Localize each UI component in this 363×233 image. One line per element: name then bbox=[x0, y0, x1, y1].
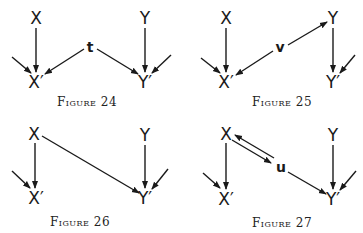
node-x-prime: X′ bbox=[28, 72, 44, 92]
caption: Figure 25 bbox=[252, 95, 312, 109]
edge-x-to-u bbox=[232, 140, 271, 163]
edge-external-to-xprime bbox=[12, 171, 30, 188]
edge-external-to-yprime bbox=[152, 55, 171, 73]
node-y: Y bbox=[327, 125, 339, 145]
edge-t-to-xprime bbox=[45, 49, 84, 74]
node-u: u bbox=[276, 159, 286, 175]
figures-canvas: X X′ Y Y′ t Figure 24 X X′ Y Y′ v Figure… bbox=[0, 0, 363, 233]
edge-external-to-xprime bbox=[203, 173, 220, 188]
node-v: v bbox=[275, 39, 284, 55]
node-y-prime: Y′ bbox=[325, 72, 340, 92]
node-x-prime: X′ bbox=[218, 189, 234, 209]
edge-external-to-xprime bbox=[12, 57, 31, 73]
figure-26: X X′ Y Y′ Figure 26 bbox=[12, 124, 168, 229]
node-x: X bbox=[30, 8, 42, 28]
edge-t-to-yprime bbox=[97, 49, 138, 74]
caption: Figure 27 bbox=[252, 216, 312, 230]
node-y: Y bbox=[327, 8, 339, 28]
edge-external-to-yprime bbox=[340, 171, 356, 190]
caption: Figure 24 bbox=[57, 95, 117, 109]
edge-external-to-yprime bbox=[340, 55, 355, 73]
node-y-prime: Y′ bbox=[137, 72, 152, 92]
node-x: X bbox=[220, 124, 232, 144]
node-t: t bbox=[87, 39, 94, 55]
edge-external-to-xprime bbox=[201, 58, 220, 73]
node-x: X bbox=[220, 8, 232, 28]
caption: Figure 26 bbox=[50, 215, 110, 229]
node-y: Y bbox=[139, 125, 151, 145]
node-y: Y bbox=[139, 8, 151, 28]
node-y-prime: Y′ bbox=[137, 188, 152, 208]
edge-external-to-yprime bbox=[152, 169, 168, 189]
edge-v-to-y bbox=[288, 22, 327, 45]
node-x: X bbox=[28, 124, 40, 144]
figure-27: X X′ Y Y′ u Figure 27 bbox=[203, 124, 356, 230]
figure-24: X X′ Y Y′ t Figure 24 bbox=[12, 8, 171, 109]
node-x-prime: X′ bbox=[218, 72, 234, 92]
node-y-prime: Y′ bbox=[325, 189, 340, 209]
figure-25: X X′ Y Y′ v Figure 25 bbox=[201, 8, 355, 109]
edge-u-to-yprime bbox=[288, 172, 326, 194]
node-x-prime: X′ bbox=[28, 188, 44, 208]
edge-u-to-x bbox=[235, 135, 274, 158]
edge-x-to-yprime bbox=[42, 136, 139, 193]
edge-v-to-xprime bbox=[236, 51, 273, 75]
